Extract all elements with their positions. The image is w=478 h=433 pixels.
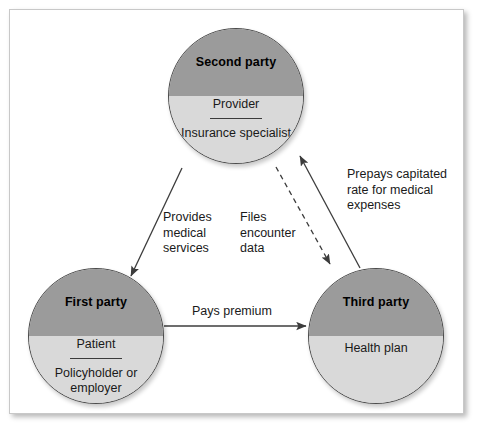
diagram-canvas: Second party Provider Insurance speciali…: [0, 0, 478, 433]
node-first-party[interactable]: First party Patient Policyholder or empl…: [28, 268, 164, 404]
node-subtitle: Health plan: [309, 341, 443, 356]
node-content: Second party Provider Insurance speciali…: [169, 29, 303, 163]
node-role: Patient: [29, 337, 163, 351]
edge-label-pays-premium: Pays premium: [192, 304, 302, 320]
node-third-party[interactable]: Third party Health plan: [308, 268, 444, 404]
edge-label-files-encounter-data: Files encounter data: [240, 210, 318, 257]
node-divider: [210, 118, 262, 119]
node-content: Third party Health plan: [309, 269, 443, 403]
edge-label-provides-medical-services: Provides medical services: [163, 210, 238, 257]
node-title: First party: [29, 295, 163, 309]
node-divider: [70, 358, 122, 359]
node-second-party[interactable]: Second party Provider Insurance speciali…: [168, 28, 304, 164]
node-content: First party Patient Policyholder or empl…: [29, 269, 163, 403]
node-title: Third party: [309, 295, 443, 309]
node-role: Provider: [169, 97, 303, 111]
node-subtitle: Insurance specialist: [169, 126, 303, 141]
node-subtitle: Policyholder or employer: [29, 366, 163, 396]
edge-label-prepays-capitated-rate: Prepays capitated rate for medical expen…: [347, 167, 471, 214]
node-title: Second party: [169, 55, 303, 69]
